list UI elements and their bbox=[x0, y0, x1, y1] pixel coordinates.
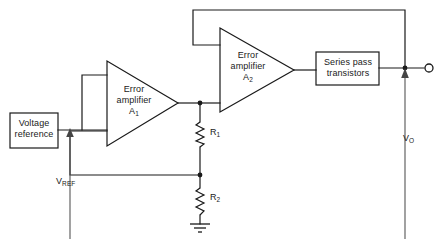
resistor-r1-symbol bbox=[196, 122, 204, 147]
error-amplifier-a2-label: Error amplifier A2 bbox=[224, 50, 272, 83]
node-amp1-output bbox=[198, 101, 203, 106]
vref-arrow-up-icon bbox=[66, 128, 74, 137]
node-divider-tap bbox=[198, 173, 203, 178]
resistor-r2-symbol bbox=[196, 188, 204, 215]
output-terminal-icon bbox=[425, 64, 433, 72]
circuit-svg bbox=[0, 0, 438, 239]
resistor-r2-label: R2 bbox=[210, 192, 220, 203]
resistor-r1-label: R1 bbox=[210, 127, 220, 138]
vo-arrow-up-icon bbox=[401, 68, 409, 78]
vo-label: VO bbox=[403, 133, 414, 144]
wire-amp1-bottom-input-to-divider-tap bbox=[70, 131, 200, 175]
wire-amp1-top-input bbox=[82, 75, 107, 130]
amp2-designator-subscript: 2 bbox=[249, 76, 253, 83]
voltage-reference-label: Voltage reference bbox=[11, 118, 57, 140]
series-pass-transistors-label: Series pass transistors bbox=[317, 57, 379, 79]
circuit-diagram: Voltage reference Series pass transistor… bbox=[0, 0, 438, 239]
amp1-designator-subscript: 1 bbox=[135, 110, 139, 117]
error-amplifier-a1-label: Error amplifier A1 bbox=[110, 84, 158, 117]
ground-icon bbox=[190, 224, 210, 232]
vref-label: VREF bbox=[56, 176, 75, 187]
